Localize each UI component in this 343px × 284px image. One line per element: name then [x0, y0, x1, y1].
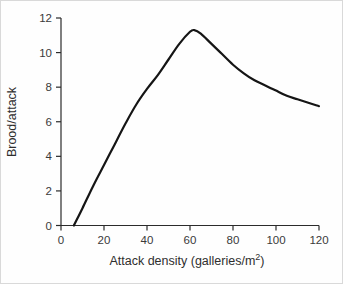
- y-tick-label: 10: [39, 47, 52, 59]
- x-tick-label: 60: [184, 234, 197, 246]
- y-tick-label: 4: [46, 150, 53, 162]
- x-tick-label: 20: [98, 234, 111, 246]
- x-axis-title: Attack density (galleries/m2): [109, 252, 264, 268]
- brood-per-attack-curve: [74, 30, 319, 226]
- x-tick-label: 0: [58, 234, 64, 246]
- chart-canvas: 024681012020406080100120 Brood/attack At…: [1, 1, 342, 283]
- y-tick-label: 6: [46, 116, 52, 128]
- y-tick-label: 12: [39, 12, 52, 24]
- axis-ticks: [56, 18, 319, 231]
- x-axis-title-main: Attack density (galleries/m: [109, 254, 255, 268]
- data-series: [74, 30, 319, 226]
- y-tick-label: 2: [46, 185, 52, 197]
- x-tick-label: 100: [266, 234, 285, 246]
- x-tick-label: 40: [141, 234, 154, 246]
- axes: [61, 18, 319, 226]
- x-tick-label: 80: [227, 234, 240, 246]
- y-tick-label: 0: [46, 220, 52, 232]
- x-axis-title-end: ): [260, 254, 264, 268]
- y-tick-label: 8: [46, 81, 52, 93]
- x-tick-label: 120: [309, 234, 328, 246]
- line-chart-figure: 024681012020406080100120 Brood/attack At…: [0, 0, 343, 284]
- y-axis-title: Brood/attack: [5, 86, 19, 157]
